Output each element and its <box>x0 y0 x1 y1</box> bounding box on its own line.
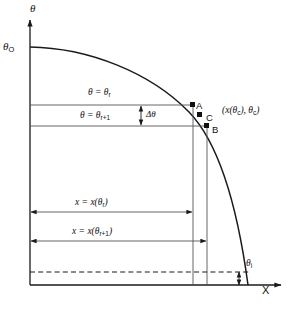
level-label-theta-r-plus-1-text: θ = θ <box>80 110 101 120</box>
theta-zero-subscript: O <box>8 45 14 54</box>
coordinate-annotation: (x(θc), θc) <box>222 105 259 116</box>
point-label-b: B <box>212 125 218 135</box>
theta-zero-label: θO <box>3 41 14 54</box>
point-label-a: A <box>196 101 202 111</box>
figure-container: θ X θO θ = θr θ = θr+1 Δθ A C B (x(θc), … <box>0 0 288 313</box>
dimension-label-x-theta-r-text: x = x(θ <box>75 197 102 207</box>
dimension-label-x-theta-r-plus-1-subscript: r+1 <box>99 230 109 237</box>
x-axis-label: X <box>262 285 269 296</box>
level-label-theta-r-plus-1: θ = θr+1 <box>80 110 110 121</box>
coordinate-middle: ), θ <box>240 105 253 115</box>
curve-point-b <box>204 123 209 128</box>
curve-point-c <box>197 112 202 117</box>
delta-theta-label: Δθ <box>146 110 156 119</box>
curve-point-a <box>190 102 195 107</box>
point-label-c: C <box>206 113 213 123</box>
coordinate-suffix: ) <box>256 105 259 115</box>
diagram-canvas <box>0 0 288 313</box>
dimension-label-x-theta-r-plus-1-close: ) <box>109 226 112 236</box>
level-label-theta-r: θ = θr <box>88 87 111 98</box>
theta-i-subscript: i <box>251 262 252 269</box>
dimension-label-x-theta-r-close: ) <box>105 197 108 207</box>
level-label-theta-r-subscript: r <box>109 91 111 98</box>
dimension-label-x-theta-r-plus-1: x = x(θr+1) <box>72 226 112 237</box>
theta-curve <box>30 47 248 285</box>
level-label-theta-r-plus-1-subscript: r+1 <box>101 114 111 121</box>
dimension-label-x-theta-r-plus-1-text: x = x(θ <box>72 226 99 236</box>
dimension-label-x-theta-r: x = x(θr) <box>75 197 108 208</box>
theta-i-label: θi <box>246 258 252 269</box>
coordinate-prefix: (x(θ <box>222 105 237 115</box>
y-axis-label: θ <box>30 3 35 14</box>
level-label-theta-r-text: θ = θ <box>88 87 109 97</box>
